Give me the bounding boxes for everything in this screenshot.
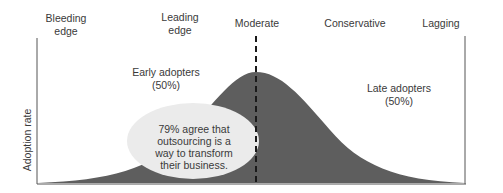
stage-label-moderate: Moderate: [235, 17, 279, 30]
stage-line: edge: [46, 25, 87, 38]
callout-line: 79% agree that: [139, 123, 249, 135]
segment-name: Early adopters: [132, 66, 200, 79]
callout-line: way to transform: [139, 147, 249, 159]
late-adopters-label: Late adopters (50%): [367, 82, 431, 108]
stage-line: Bleeding: [46, 12, 87, 25]
stage-label-conservative: Conservative: [324, 17, 385, 30]
stage-label-bleeding-edge: Bleeding edge: [46, 12, 87, 38]
early-adopters-label: Early adopters (50%): [132, 66, 200, 92]
callout-line: outsourcing is a: [139, 135, 249, 147]
y-axis-label: Adoption rate: [21, 109, 33, 171]
stage-label-lagging: Lagging: [422, 17, 459, 30]
stage-label-leading-edge: Leading edge: [161, 11, 198, 37]
stage-line: Leading: [161, 11, 198, 24]
stage-line: edge: [161, 24, 198, 37]
segment-share: (50%): [367, 95, 431, 108]
segment-share: (50%): [132, 79, 200, 92]
callout-text: 79% agree that outsourcing is a way to t…: [139, 123, 249, 171]
callout-line: their business.: [139, 159, 249, 171]
segment-name: Late adopters: [367, 82, 431, 95]
